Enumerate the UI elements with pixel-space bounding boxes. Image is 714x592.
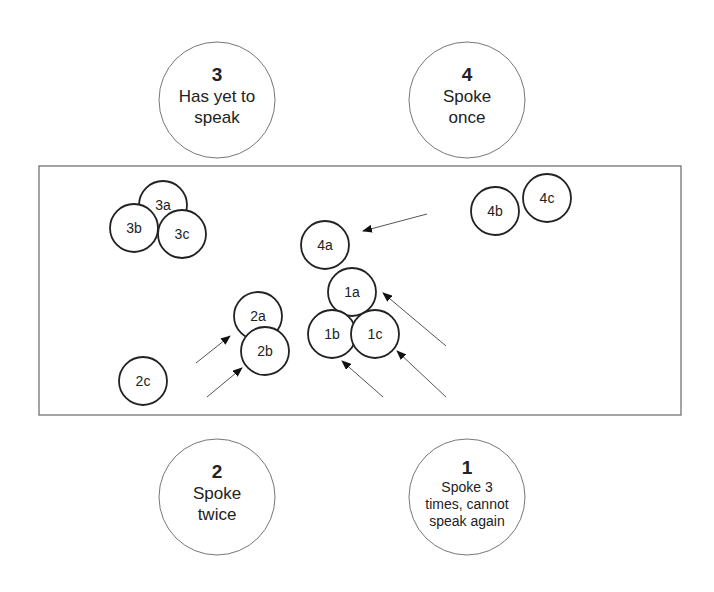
statement-label: 2a <box>250 308 266 324</box>
speaking-order-diagram: 3a3b3c4b4c4a1a1b1c2a2b2c 3Has yet tospea… <box>0 0 714 592</box>
statement-label: 2c <box>136 373 151 389</box>
speaker-status-line: twice <box>198 505 237 524</box>
statement-4b: 4b <box>471 187 519 235</box>
statements-layer: 3a3b3c4b4c4a1a1b1c2a2b2c <box>110 174 571 405</box>
arrow-5 <box>207 368 242 397</box>
speaker-status-line: Has yet to <box>179 87 256 106</box>
statement-4a: 4a <box>301 221 349 269</box>
speaker-status-line: speak <box>194 108 240 127</box>
statement-label: 1c <box>368 326 383 342</box>
arrow-4 <box>196 336 230 363</box>
statement-1c: 1c <box>351 310 399 358</box>
statement-label: 3c <box>175 226 190 242</box>
arrow-2 <box>397 351 446 397</box>
speaker-2: 2Spoketwice <box>159 439 275 555</box>
statement-3b: 3b <box>110 204 158 252</box>
speaker-status-line: Spoke <box>443 87 491 106</box>
statement-label: 4c <box>540 190 555 206</box>
statement-4c: 4c <box>523 174 571 222</box>
speaker-number: 2 <box>212 461 223 482</box>
statement-label: 4b <box>487 203 503 219</box>
statement-label: 3a <box>155 197 171 213</box>
speaker-1: 1Spoke 3times, cannotspeak again <box>409 439 525 555</box>
speaker-3: 3Has yet tospeak <box>159 42 275 158</box>
diagram-canvas: 3a3b3c4b4c4a1a1b1c2a2b2c 3Has yet tospea… <box>0 0 714 592</box>
statement-3c: 3c <box>158 210 206 258</box>
statement-label: 1b <box>324 326 340 342</box>
statement-1a: 1a <box>328 268 376 316</box>
arrow-3 <box>342 361 383 397</box>
speaker-4: 4Spokeonce <box>409 42 525 158</box>
statement-label: 2b <box>257 343 273 359</box>
statement-label: 1a <box>344 284 360 300</box>
statement-2c: 2c <box>119 357 167 405</box>
speaker-number: 1 <box>462 457 473 478</box>
speaker-status-line: once <box>449 108 486 127</box>
statement-label: 3b <box>126 220 142 236</box>
statement-2b: 2b <box>241 327 289 375</box>
speaker-number: 4 <box>462 64 473 85</box>
speaker-status-line: times, cannot <box>425 496 508 512</box>
statement-label: 4a <box>317 237 333 253</box>
speaker-status-line: Spoke 3 <box>441 479 493 495</box>
arrow-0 <box>363 214 427 231</box>
speaker-number: 3 <box>212 64 223 85</box>
speaker-status-line: Spoke <box>193 484 241 503</box>
speaker-status-line: speak again <box>429 513 505 529</box>
statement-1b: 1b <box>308 310 356 358</box>
